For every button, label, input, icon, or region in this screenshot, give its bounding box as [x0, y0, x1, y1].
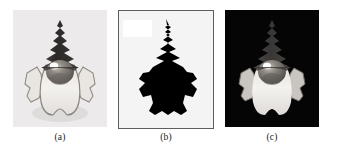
- caption-b: (b): [118, 132, 214, 142]
- panel-c-image: [225, 10, 319, 127]
- gnome-original-graphic: [13, 10, 107, 127]
- caption-a-container: (a): [13, 132, 107, 148]
- gnome-face-shadow: [50, 73, 70, 85]
- gnome-extracted-graphic: [225, 10, 319, 127]
- caption-c: (c): [225, 132, 319, 142]
- panel-b: [118, 10, 214, 129]
- caption-b-container: (b): [118, 132, 214, 148]
- caption-c-container: (c): [225, 132, 319, 148]
- gnome-face-shadow: [262, 73, 282, 85]
- panel-a-image: [13, 10, 107, 127]
- panel-a: [13, 10, 107, 127]
- caption-a: (a): [13, 132, 107, 142]
- panel-c: [225, 10, 319, 127]
- panel-b-image: [118, 10, 214, 129]
- segmentation-figure: (a) (b) (c): [0, 0, 337, 158]
- mask-white-rectangle-artifact: [123, 20, 152, 37]
